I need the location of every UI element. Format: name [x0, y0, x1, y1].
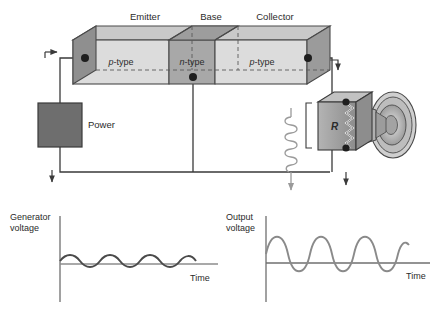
- power-block: [38, 103, 82, 147]
- speaker-dust-cap: [385, 116, 398, 135]
- label-collector-type: p-type: [248, 57, 274, 67]
- chart-output-voltage: Output voltage Time: [226, 212, 430, 302]
- terminal-base: [189, 73, 197, 81]
- label-collector: Collector: [256, 11, 294, 22]
- wire-emitter-to-power: [60, 58, 73, 104]
- generator-chart-xlabel: Time: [190, 273, 210, 283]
- transistor-amplifier-figure: Power: [0, 0, 442, 321]
- terminal-emitter: [81, 54, 89, 62]
- label-emitter: Emitter: [130, 11, 160, 22]
- output-waveform: [266, 237, 409, 272]
- terminal-resistor-top: [342, 98, 349, 105]
- label-emitter-type: p-type: [107, 57, 133, 67]
- resistor-label: R: [331, 121, 339, 132]
- label-base-type-rest: -type: [185, 57, 205, 67]
- terminal-collector: [304, 54, 312, 62]
- resistor-block: R: [318, 92, 372, 152]
- output-chart-xlabel: Time: [406, 271, 426, 281]
- label-collector-type-rest: -type: [255, 57, 275, 67]
- generator-waveform: [60, 255, 196, 267]
- generator-chart-ylabel-line2: voltage: [10, 223, 39, 233]
- label-emitter-type-rest: -type: [114, 57, 134, 67]
- terminal-resistor-bottom: [342, 144, 349, 151]
- signal-coil: [285, 117, 297, 172]
- output-chart-ylabel-line1: Output: [226, 212, 254, 222]
- output-chart-ylabel-line2: voltage: [226, 223, 255, 233]
- resistor-right-face: [356, 92, 372, 150]
- power-label: Power: [88, 119, 115, 130]
- output-stage: R: [306, 92, 416, 158]
- transistor-block: Emitter Base Collector p-type n-type p-t…: [73, 11, 330, 84]
- chart-generator-voltage: Generator voltage Time: [10, 212, 218, 302]
- power-source: Power: [38, 103, 115, 147]
- label-base: Base: [200, 11, 222, 22]
- resistor-bracket: [306, 103, 312, 148]
- figure-canvas: Power: [0, 0, 442, 321]
- generator-chart-ylabel-line1: Generator: [10, 212, 51, 222]
- label-base-type: n-type: [179, 57, 204, 67]
- signal-source: [285, 108, 297, 190]
